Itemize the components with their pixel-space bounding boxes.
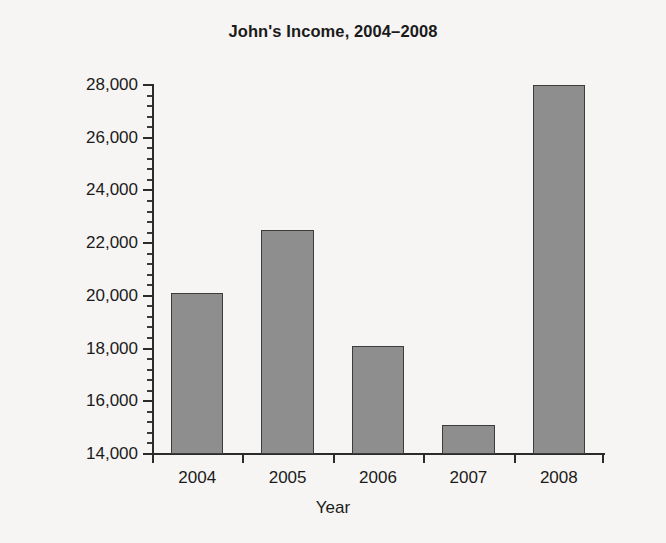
y-tick-label: 26,000 — [86, 128, 138, 148]
bar-chart-figure: John's Income, 2004–2008 14,00016,00018,… — [0, 0, 666, 543]
y-tick-label: 14,000 — [86, 444, 138, 464]
y-tick-minor — [147, 390, 152, 392]
y-tick-minor — [147, 305, 152, 307]
x-tick-label-2008: 2008 — [540, 468, 578, 488]
y-tick-major — [143, 137, 152, 139]
x-axis-title: Year — [0, 498, 666, 518]
chart-title: John's Income, 2004–2008 — [0, 22, 666, 41]
x-tick — [333, 454, 335, 463]
y-tick-minor — [147, 147, 152, 149]
y-tick-major — [143, 242, 152, 244]
y-tick-minor — [147, 326, 152, 328]
y-tick-minor — [147, 221, 152, 223]
y-tick-minor — [147, 358, 152, 360]
y-tick-minor — [147, 316, 152, 318]
y-tick-minor — [147, 442, 152, 444]
y-tick-minor — [147, 105, 152, 107]
y-tick-minor — [147, 253, 152, 255]
y-tick-major — [143, 84, 152, 86]
y-tick-minor — [147, 232, 152, 234]
y-tick-minor — [147, 337, 152, 339]
bar-2004 — [171, 293, 223, 454]
y-tick-minor — [147, 274, 152, 276]
x-tick — [152, 454, 154, 463]
y-tick-minor — [147, 116, 152, 118]
y-tick-major — [143, 295, 152, 297]
x-tick — [514, 454, 516, 463]
y-tick-minor — [147, 168, 152, 170]
plot-area: 14,00016,00018,00020,00022,00024,00026,0… — [152, 85, 604, 454]
y-tick-minor — [147, 158, 152, 160]
y-tick-label: 22,000 — [86, 233, 138, 253]
y-tick-minor — [147, 284, 152, 286]
y-tick-label: 28,000 — [86, 75, 138, 95]
bar-2006 — [352, 346, 404, 454]
y-axis-title: Income, in Dollars — [0, 118, 2, 254]
y-tick-minor — [147, 411, 152, 413]
y-tick-minor — [147, 379, 152, 381]
y-tick-major — [143, 453, 152, 455]
y-tick-label: 20,000 — [86, 286, 138, 306]
y-tick-minor — [147, 200, 152, 202]
y-tick-label: 16,000 — [86, 391, 138, 411]
x-tick — [602, 454, 604, 463]
y-tick-minor — [147, 263, 152, 265]
bar-2005 — [261, 230, 313, 454]
bar-2008 — [533, 85, 585, 454]
y-tick-minor — [147, 95, 152, 97]
x-tick-label-2005: 2005 — [269, 468, 307, 488]
y-tick-minor — [147, 421, 152, 423]
y-tick-minor — [147, 432, 152, 434]
y-tick-label: 24,000 — [86, 180, 138, 200]
y-tick-major — [143, 348, 152, 350]
x-tick — [242, 454, 244, 463]
y-tick-label: 18,000 — [86, 339, 138, 359]
x-tick — [423, 454, 425, 463]
x-tick-label-2007: 2007 — [449, 468, 487, 488]
y-tick-minor — [147, 211, 152, 213]
x-tick-label-2004: 2004 — [178, 468, 216, 488]
y-tick-minor — [147, 126, 152, 128]
y-tick-major — [143, 189, 152, 191]
y-tick-minor — [147, 179, 152, 181]
bar-2007 — [442, 425, 494, 454]
y-tick-major — [143, 400, 152, 402]
y-tick-minor — [147, 369, 152, 371]
x-tick-label-2006: 2006 — [359, 468, 397, 488]
